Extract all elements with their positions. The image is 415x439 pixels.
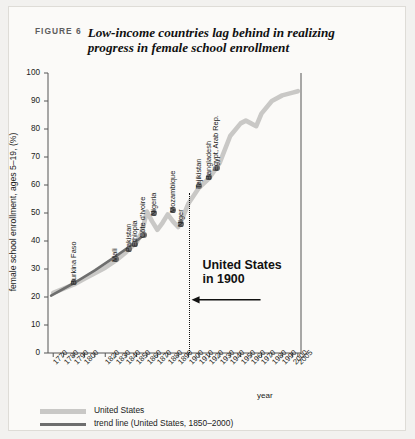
country-label: Nigeria xyxy=(149,193,158,216)
legend-label: trend line (United States, 1850–2000) xyxy=(94,418,233,428)
annotation-line-1: United States xyxy=(203,258,282,272)
country-label: Egypt, Arab Rep. xyxy=(211,115,220,171)
country-label: Mozambique xyxy=(168,171,177,213)
country-label: Tajikistan xyxy=(194,159,203,189)
figure-container: FIGURE 6Low-income countries lag behind … xyxy=(8,6,406,431)
legend-swatch xyxy=(40,409,86,414)
country-label: Mali xyxy=(110,249,119,263)
y-tick-label: 100 xyxy=(14,68,40,77)
country-label: Côte d'Ivoire xyxy=(138,197,147,238)
chart-plot-area: 0102030405060708090100177017801790180018… xyxy=(9,7,407,432)
country-label: Niger xyxy=(176,210,185,228)
annotation-line-2: in 1900 xyxy=(203,272,282,286)
year-1900-marker-line xyxy=(189,193,190,353)
legend-label: United States xyxy=(94,405,144,415)
annotation-text: United States in 1900 xyxy=(203,258,282,286)
legend-swatch xyxy=(40,423,86,426)
x-axis-title: year xyxy=(257,391,273,400)
chart-svg xyxy=(9,7,407,432)
y-tick-label: 0 xyxy=(14,348,40,357)
country-label: Burkina Faso xyxy=(69,241,78,285)
y-axis-title: female school enrollment, ages 5–19, (%) xyxy=(8,97,18,327)
